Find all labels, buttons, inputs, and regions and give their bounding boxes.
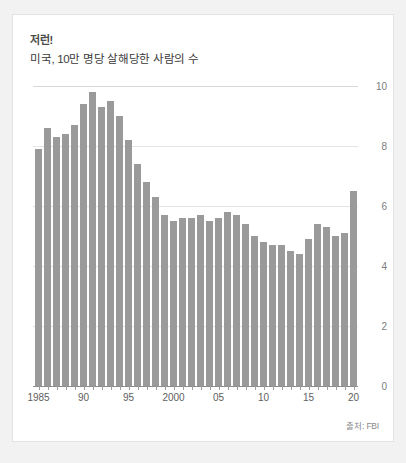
x-axis-tick-1997	[147, 386, 148, 390]
y-axis-label-4: 4	[363, 261, 387, 272]
bar-2017	[323, 227, 329, 386]
y-axis-label-2: 2	[363, 321, 387, 332]
bar-1986	[44, 128, 50, 386]
x-axis-tick-1991	[93, 386, 94, 390]
x-axis-tick-2016	[318, 386, 319, 390]
x-axis-tick-2014	[300, 386, 301, 390]
x-axis-tick-2002	[192, 386, 193, 390]
x-axis-tick-2003	[201, 386, 202, 390]
bar-2012	[278, 245, 284, 386]
x-axis-tick-1985	[39, 386, 40, 390]
bar-series	[34, 86, 358, 386]
x-axis-label-2000: 2000	[162, 392, 184, 403]
bar-2011	[269, 245, 275, 386]
x-axis-tick-1989	[75, 386, 76, 390]
y-axis-label-6: 6	[363, 201, 387, 212]
bar-2009	[251, 236, 257, 386]
x-axis-tick-1996	[138, 386, 139, 390]
x-axis-tick-1990	[84, 386, 85, 390]
bar-2013	[287, 251, 293, 386]
source-note: 출처: FBI	[346, 419, 379, 431]
x-axis-tick-1995	[129, 386, 130, 390]
bar-2004	[206, 221, 212, 386]
x-axis-tick-2012	[282, 386, 283, 390]
x-axis-tick-1987	[57, 386, 58, 390]
y-axis-label-10: 10	[363, 81, 387, 92]
x-axis-tick-1988	[66, 386, 67, 390]
bar-1988	[62, 134, 68, 386]
x-axis-tick-2004	[210, 386, 211, 390]
bar-2006	[224, 212, 230, 386]
x-axis-tick-2018	[336, 386, 337, 390]
bar-1991	[89, 92, 95, 386]
bar-1999	[161, 215, 167, 386]
bar-1993	[107, 101, 113, 386]
x-axis-label-2010: 10	[258, 392, 269, 403]
x-axis-tick-2005	[219, 386, 220, 390]
x-axis-label-2005: 05	[213, 392, 224, 403]
bar-1994	[116, 116, 122, 386]
bar-2008	[242, 224, 248, 386]
chart-plot-area: 0246810 19859095200005101520	[13, 15, 395, 443]
bar-2002	[188, 218, 194, 386]
bar-2014	[296, 254, 302, 386]
bar-2010	[260, 242, 266, 386]
x-axis-tick-2019	[345, 386, 346, 390]
x-axis-tick-1998	[156, 386, 157, 390]
x-axis-tick-1993	[111, 386, 112, 390]
x-axis-tick-1994	[120, 386, 121, 390]
x-axis-tick-1986	[48, 386, 49, 390]
y-axis-label-8: 8	[363, 141, 387, 152]
x-axis-tick-2010	[264, 386, 265, 390]
bar-1990	[80, 104, 86, 386]
x-axis-label-2020: 20	[348, 392, 359, 403]
x-axis-tick-2000	[174, 386, 175, 390]
bar-1992	[98, 107, 104, 386]
bar-1998	[152, 197, 158, 386]
x-axis-label-1985: 1985	[27, 392, 49, 403]
bar-1987	[53, 137, 59, 386]
x-axis-tick-2011	[273, 386, 274, 390]
bar-2020	[350, 191, 356, 386]
x-axis-tick-2013	[291, 386, 292, 390]
y-axis-label-0: 0	[363, 381, 387, 392]
bar-2019	[341, 233, 347, 386]
bar-2001	[179, 218, 185, 386]
bar-1996	[134, 164, 140, 386]
bar-2000	[170, 221, 176, 386]
x-axis-tick-1999	[165, 386, 166, 390]
x-axis-tick-2006	[228, 386, 229, 390]
x-axis-tick-1992	[102, 386, 103, 390]
bar-1997	[143, 182, 149, 386]
bar-2005	[215, 218, 221, 386]
x-axis-tick-2001	[183, 386, 184, 390]
bar-2007	[233, 215, 239, 386]
bar-1989	[71, 125, 77, 386]
x-axis-label-2015: 15	[303, 392, 314, 403]
x-axis-tick-2017	[327, 386, 328, 390]
bar-1995	[125, 140, 131, 386]
bar-2016	[314, 224, 320, 386]
bar-1985	[35, 149, 41, 386]
bar-2018	[332, 236, 338, 386]
x-axis-tick-2015	[309, 386, 310, 390]
x-axis-tick-2020	[354, 386, 355, 390]
chart-card: 저런! 미국, 10만 명당 살해당한 사람의 수 0246810 198590…	[12, 14, 394, 442]
bar-2015	[305, 239, 311, 386]
x-axis-label-1990: 90	[78, 392, 89, 403]
x-axis-tick-2009	[255, 386, 256, 390]
x-axis-tick-2008	[246, 386, 247, 390]
bar-2003	[197, 215, 203, 386]
x-axis-tick-2007	[237, 386, 238, 390]
x-axis-label-1995: 95	[123, 392, 134, 403]
